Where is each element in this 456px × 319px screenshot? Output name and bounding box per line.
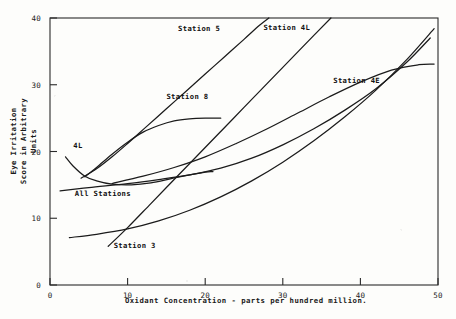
curve-label-4l: 4L xyxy=(73,141,83,150)
curve-4l xyxy=(66,157,213,185)
curve-label-station-3: Station 3 xyxy=(114,241,156,250)
tick-marks xyxy=(50,18,438,285)
x-axis-title: Oxidant Concentration - parts per hundre… xyxy=(0,296,456,305)
y-tick-label: 0 xyxy=(36,281,41,290)
curve-labels: 4LAll StationsStation 5Station 8Station … xyxy=(73,23,380,250)
axes-frame xyxy=(50,18,438,285)
curve-all-stations xyxy=(60,38,430,191)
curve-station-3 xyxy=(69,29,434,238)
y-axis-title-line2: Score in Arbitrary Units xyxy=(19,86,39,196)
curve-station-4e xyxy=(112,64,434,183)
y-tick-label: 10 xyxy=(32,214,42,223)
chart-plot-svg: 01020304001020304050 4LAll StationsStati… xyxy=(0,0,456,319)
chart-figure: 01020304001020304050 4LAll StationsStati… xyxy=(0,0,456,319)
y-tick-label: 40 xyxy=(32,14,42,23)
data-curves xyxy=(60,18,434,246)
x-axis-title-text: Oxidant Concentration - parts per hundre… xyxy=(89,296,367,305)
curve-station-8 xyxy=(85,118,221,177)
curve-label-station-8: Station 8 xyxy=(166,92,208,101)
curve-station-4l xyxy=(108,18,331,246)
tick-labels: 01020304001020304050 xyxy=(32,14,443,300)
curve-label-station-4l: Station 4L xyxy=(263,23,310,32)
y-axis-title-line1: Eye Irritation xyxy=(9,86,19,196)
curve-label-station-4e: Station 4E xyxy=(333,76,380,85)
curve-label-all-stations: All Stations xyxy=(75,189,131,198)
y-axis-title: Eye Irritation Score in Arbitrary Units xyxy=(9,86,39,196)
curve-label-station-5: Station 5 xyxy=(178,24,220,33)
